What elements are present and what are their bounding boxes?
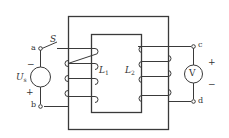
terminal-c[interactable] <box>192 45 196 49</box>
terminal-b[interactable] <box>39 105 43 109</box>
meter-minus-label: − <box>208 80 216 89</box>
voltmeter-label: V <box>189 69 196 78</box>
terminal-a[interactable] <box>39 47 43 51</box>
terminal-c-label: c <box>198 41 202 49</box>
source-minus-label: − <box>27 60 35 69</box>
terminal-d-label: d <box>198 97 203 105</box>
secondary-winding <box>138 47 191 102</box>
switch-label: S <box>50 35 56 44</box>
transformer-diagram: S a b c d − + Us L1 L2 V + − <box>0 0 229 138</box>
source-symbol: U <box>16 72 24 82</box>
source-subscript: s <box>24 76 27 83</box>
voltage-source-icon <box>31 67 51 87</box>
terminal-b-label: b <box>31 101 36 109</box>
source-label: Us <box>16 73 27 83</box>
primary-winding <box>44 49 98 107</box>
coil2-label: L2 <box>125 66 135 76</box>
coil1-label: L1 <box>99 66 109 76</box>
source-plus-label: + <box>26 88 34 97</box>
coil2-subscript: 2 <box>131 69 135 76</box>
coil1-subscript: 1 <box>105 69 109 76</box>
terminal-a-label: a <box>31 44 36 52</box>
meter-plus-label: + <box>208 58 216 67</box>
terminal-d[interactable] <box>192 100 196 104</box>
